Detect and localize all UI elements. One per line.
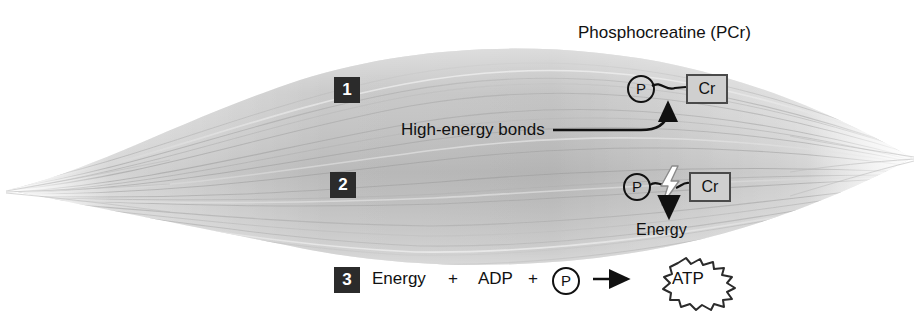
step-badge-2: 2 — [330, 172, 356, 198]
phosphate-circle-icon-step1: P — [627, 75, 655, 103]
equation-plus-2: + — [528, 269, 538, 289]
equation-product-atp: ATP — [672, 269, 704, 289]
creatine-box-icon-step2: Cr — [689, 172, 731, 202]
phosphate-circle-icon-step3: P — [552, 267, 580, 295]
equation-term-energy: Energy — [372, 269, 426, 289]
figure-canvas: Phosphocreatine (PCr) 1 P Cr High-energy… — [0, 0, 920, 313]
step-badge-3: 3 — [334, 267, 360, 293]
fiber-body — [0, 0, 920, 313]
energy-output-label: Energy — [636, 221, 687, 239]
equation-plus-1: + — [448, 269, 458, 289]
phosphate-circle-icon-step2: P — [623, 173, 651, 201]
equation-term-adp: ADP — [478, 269, 513, 289]
muscle-fiber-illustration — [0, 0, 920, 313]
figure-title: Phosphocreatine (PCr) — [578, 23, 751, 43]
creatine-box-icon-step1: Cr — [686, 74, 728, 104]
step-badge-1: 1 — [334, 77, 360, 103]
high-energy-bonds-label: High-energy bonds — [401, 120, 545, 140]
